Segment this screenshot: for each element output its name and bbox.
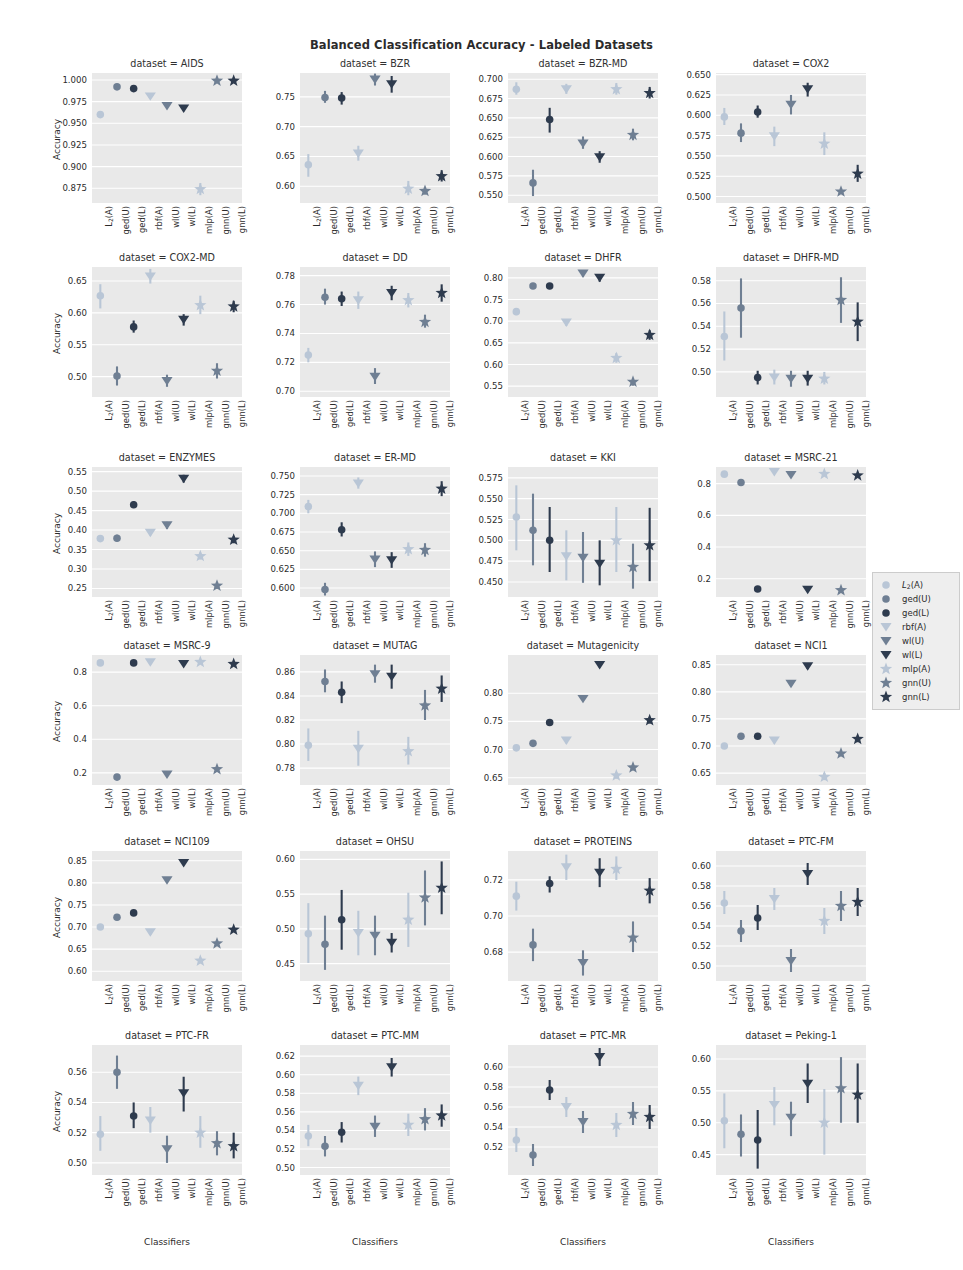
y-tick-label: 0.700 [478,74,508,84]
star-icon [878,662,894,676]
legend-item: mlp(A) [878,662,952,676]
x-tick-label: ged(L) [137,600,147,627]
y-tick-label: 0.56 [692,901,716,911]
y-tick-label: 0.80 [692,687,716,697]
plot-area: 0.700.720.740.760.78L2(A)ged(U)ged(L)rbf… [300,267,450,397]
panel-title: dataset = BZR [300,58,450,69]
legend-label: wl(U) [894,636,924,646]
x-tick-label: L2(A) [312,206,322,227]
x-tick-label: rbf(A) [570,206,580,230]
legend-item: ged(U) [878,592,952,606]
x-tick-labels: L2(A)ged(U)ged(L)rbf(A)wl(U)wl(L)mlp(A)g… [508,785,658,843]
x-tick-label: ged(U) [537,984,547,1012]
x-tick-label: mlp(A) [828,400,838,428]
y-tick-label: 0.50 [276,924,300,934]
x-tick-label: rbf(A) [570,600,580,624]
y-tick-label: 0.600 [478,152,508,162]
x-tick-label: ged(U) [121,400,131,428]
y-tick-label: 0.525 [478,515,508,525]
x-tick-label: L2(A) [520,206,530,227]
y-tick-label: 0.55 [68,340,92,350]
y-tick-label: 0.54 [692,921,716,931]
y-tick-label: 0.80 [484,273,508,283]
y-tick-label: 1.000 [62,75,92,85]
x-tick-label: ged(U) [745,600,755,628]
x-tick-label: ged(U) [537,1178,547,1206]
x-tick-label: ged(L) [345,984,355,1011]
y-tick-label: 0.550 [478,494,508,504]
y-tick-label: 0.6 [697,510,716,520]
panel-title: dataset = MUTAG [300,640,450,651]
x-tick-label: mlp(A) [412,400,422,428]
x-tick-label: L2(A) [520,788,530,809]
legend: L2(A)ged(U)ged(L)rbf(A)wl(U)wl(L)mlp(A)g… [872,572,960,710]
x-tick-label: wl(U) [171,206,181,228]
y-tick-label: 0.875 [62,183,92,193]
x-tick-label: rbf(A) [154,984,164,1008]
x-tick-label: ged(L) [553,984,563,1011]
x-tick-label: gnn(L) [445,400,455,427]
x-tick-label: wl(U) [171,1178,181,1200]
x-tick-label: wl(L) [395,400,405,420]
x-tick-label: ged(L) [137,400,147,427]
y-tick-label: 0.58 [484,1082,508,1092]
x-tick-label: ged(L) [137,206,147,233]
x-tick-label: wl(U) [587,206,597,228]
x-tick-label: mlp(A) [828,788,838,816]
x-tick-label: ged(L) [761,206,771,233]
x-tick-label: ged(L) [553,1178,563,1205]
x-tick-label: wl(L) [395,1178,405,1198]
x-tick-label: gnn(L) [861,984,871,1011]
x-tick-label: L2(A) [104,984,114,1005]
x-tick-label: rbf(A) [778,788,788,812]
y-tick-label: 0.75 [484,295,508,305]
x-tick-label: L2(A) [104,206,114,227]
y-tick-label: 0.65 [276,151,300,161]
x-tick-label: rbf(A) [362,788,372,812]
plot-area: 0.500.550.600.65L2(A)ged(U)ged(L)rbf(A)w… [92,267,242,397]
y-tick-label: 0.575 [478,171,508,181]
x-tick-label: ged(U) [329,984,339,1012]
x-tick-label: ged(U) [329,206,339,234]
x-tick-label: ged(U) [537,788,547,816]
y-tick-label: 0.45 [692,1150,716,1160]
y-tick-label: 0.54 [68,1097,92,1107]
x-tick-label: ged(U) [121,984,131,1012]
x-tick-label: mlp(A) [412,206,422,234]
plot-area: 0.250.300.350.400.450.500.55L2(A)ged(U)g… [92,467,242,597]
x-tick-label: L2(A) [520,600,530,621]
y-tick-label: 0.60 [692,861,716,871]
circle-icon [878,578,894,592]
x-tick-label: gnn(L) [653,400,663,427]
y-tick-label: 0.575 [686,131,716,141]
y-tick-label: 0.58 [692,276,716,286]
x-tick-label: wl(L) [603,600,613,620]
y-tick-label: 0.52 [276,1144,300,1154]
y-axis-label: Accuracy [52,701,62,742]
x-tick-label: wl(L) [811,1178,821,1198]
x-tick-label: wl(U) [379,788,389,810]
x-tick-label: gnn(U) [637,600,647,629]
y-tick-label: 0.975 [62,97,92,107]
x-tick-label: ged(L) [761,788,771,815]
x-tick-label: L2(A) [312,984,322,1005]
x-tick-label: ged(U) [329,400,339,428]
x-tick-label: wl(U) [379,984,389,1006]
x-tick-label: ged(U) [329,600,339,628]
x-tick-label: gnn(L) [445,600,455,627]
x-tick-label: wl(L) [395,984,405,1004]
x-tick-label: ged(U) [537,206,547,234]
y-tick-label: 0.45 [68,506,92,516]
x-tick-labels: L2(A)ged(U)ged(L)rbf(A)wl(U)wl(L)mlp(A)g… [300,397,450,455]
y-tick-label: 0.525 [686,171,716,181]
x-tick-label: ged(U) [537,400,547,428]
panel-title: dataset = NCI109 [92,836,242,847]
y-tick-label: 0.625 [270,564,300,574]
panel-title: dataset = PROTEINS [508,836,658,847]
x-tick-label: mlp(A) [412,600,422,628]
x-tick-label: mlp(A) [412,984,422,1012]
x-tick-label: gnn(U) [637,788,647,817]
y-tick-label: 0.30 [68,564,92,574]
y-tick-label: 0.50 [692,367,716,377]
x-tick-label: wl(U) [171,984,181,1006]
